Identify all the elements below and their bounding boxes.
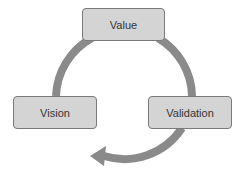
arc-value-to-validation (158, 38, 192, 96)
node-validation-label: Validation (166, 107, 214, 119)
node-value: Value (82, 8, 165, 41)
arrowhead-icon (90, 146, 106, 166)
node-validation: Validation (148, 96, 232, 129)
arc-vision-to-value (56, 38, 92, 96)
arc-validation-to-vision (104, 128, 182, 159)
node-vision-label: Vision (40, 107, 70, 119)
node-vision: Vision (13, 96, 97, 129)
node-value-label: Value (110, 19, 137, 31)
